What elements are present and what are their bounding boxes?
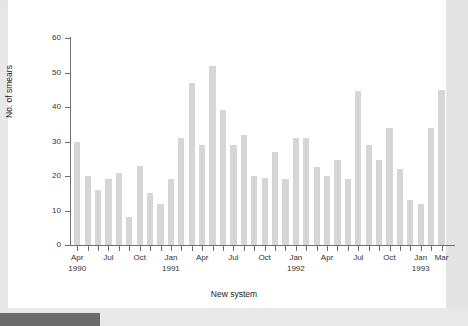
x-axis-tick-label-month: Jan (281, 253, 311, 263)
bar (314, 167, 320, 245)
y-axis-title: No. of smears (4, 65, 14, 118)
bar (220, 110, 226, 245)
x-axis-tick (317, 246, 318, 251)
x-axis-tick (108, 246, 109, 251)
x-axis-tick-label-month: Jul (343, 253, 373, 263)
x-axis-tick-label-year: 1993 (406, 264, 436, 274)
bar (199, 145, 205, 245)
x-axis-tick (202, 246, 203, 251)
x-axis-tick (369, 246, 370, 251)
bar (189, 83, 195, 245)
bar (366, 145, 372, 245)
x-axis-tick-label-month: Oct (250, 253, 280, 263)
x-axis-tick (254, 246, 255, 251)
y-axis-tick-label: 40 (41, 103, 61, 111)
x-axis-tick (358, 246, 359, 251)
x-axis-title: New system (0, 289, 468, 299)
x-axis-line (70, 245, 455, 246)
bar (272, 152, 278, 245)
x-axis-tick (306, 246, 307, 251)
bar (262, 178, 268, 245)
plot-area (71, 38, 452, 245)
x-axis-tick (181, 246, 182, 251)
x-axis-tick (161, 246, 162, 251)
horizontal-scrollbar-thumb[interactable] (0, 313, 100, 326)
x-axis-tick-label-month: Apr (312, 253, 342, 263)
bar (116, 173, 122, 245)
x-axis-tick-label-year: 1991 (156, 264, 186, 274)
bar (345, 179, 351, 245)
x-axis-tick (88, 246, 89, 251)
x-axis-tick (150, 246, 151, 251)
x-axis-tick (421, 246, 422, 251)
x-axis-tick (379, 246, 380, 251)
x-axis-tick (140, 246, 141, 251)
x-axis-tick-label-month: Apr (62, 253, 92, 263)
bar (303, 138, 309, 245)
bar (95, 190, 101, 245)
x-axis-tick-label-month: Oct (125, 253, 155, 263)
y-axis-tick-label: 0 (41, 241, 61, 249)
x-axis-tick (275, 246, 276, 251)
y-axis-tick (65, 245, 71, 246)
x-axis-tick (265, 246, 266, 251)
x-axis-tick (337, 246, 338, 251)
y-axis-tick-label: 30 (41, 138, 61, 146)
x-axis-tick (442, 246, 443, 251)
bar (438, 90, 444, 245)
bar (126, 217, 132, 245)
x-axis-tick-label-month: Oct (375, 253, 405, 263)
x-axis-tick-label-month: Jul (218, 253, 248, 263)
x-axis-tick (400, 246, 401, 251)
y-axis-tick-label: 20 (41, 172, 61, 180)
x-axis-tick (213, 246, 214, 251)
bar (334, 160, 340, 245)
chart-canvas: No. of smears 0102030405060 Apr1990JulOc… (8, 0, 446, 308)
x-axis-tick-label-year: 1992 (281, 264, 311, 274)
bar (418, 204, 424, 245)
bar (241, 135, 247, 245)
bar (386, 128, 392, 245)
bar (178, 138, 184, 245)
bar (397, 169, 403, 245)
x-axis-tick (192, 246, 193, 251)
x-axis-tick (129, 246, 130, 251)
x-axis-tick-label-month: Apr (187, 253, 217, 263)
x-axis-tick (348, 246, 349, 251)
bar (157, 204, 163, 245)
x-axis-tick-label-month: Mar (427, 253, 457, 263)
bar (407, 200, 413, 245)
x-axis-tick-label-year: 1990 (62, 264, 92, 274)
bar (376, 160, 382, 245)
bar (324, 176, 330, 245)
x-axis-tick-label-month: Jul (93, 253, 123, 263)
bar (137, 166, 143, 245)
x-axis-tick (98, 246, 99, 251)
x-axis-tick (77, 246, 78, 251)
x-axis-tick (119, 246, 120, 251)
x-axis-tick (244, 246, 245, 251)
bar (282, 179, 288, 245)
figure-page: No. of smears 0102030405060 Apr1990JulOc… (0, 0, 468, 326)
bar (293, 138, 299, 245)
x-axis-tick (223, 246, 224, 251)
bar (209, 66, 215, 245)
x-axis-tick (431, 246, 432, 251)
bar (428, 128, 434, 245)
bar (355, 91, 361, 245)
x-axis-tick (233, 246, 234, 251)
bar (74, 142, 80, 246)
bar (147, 193, 153, 245)
x-axis-tick (171, 246, 172, 251)
bar (105, 179, 111, 245)
y-axis-tick-label: 10 (41, 207, 61, 215)
x-axis-tick-label-month: Jan (156, 253, 186, 263)
x-axis-tick (327, 246, 328, 251)
y-axis-tick-label: 50 (41, 69, 61, 77)
bar (230, 145, 236, 245)
bar (168, 179, 174, 245)
x-axis-tick (390, 246, 391, 251)
bar (85, 176, 91, 245)
horizontal-scrollbar-track[interactable] (0, 313, 468, 326)
x-axis-tick (296, 246, 297, 251)
